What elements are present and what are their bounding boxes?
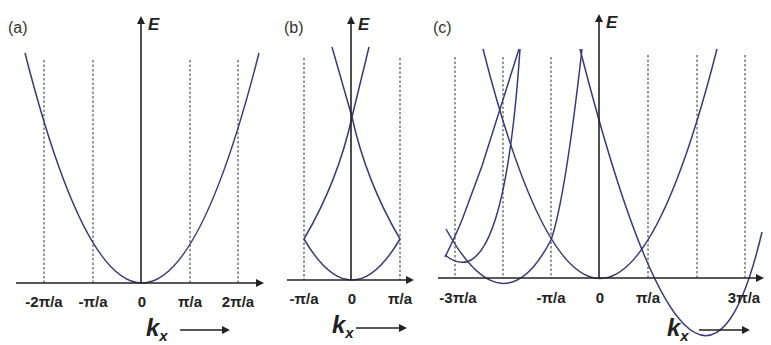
tick-label: -π/a — [79, 293, 109, 310]
tick-label: -2π/a — [25, 293, 63, 310]
tick-label: 0 — [596, 289, 604, 306]
panel-b-label: (b) — [284, 19, 304, 36]
tick-label: -3π/a — [439, 289, 477, 306]
tick-label: π/a — [388, 290, 413, 307]
dispersion-curve — [25, 53, 259, 283]
tick-label: -π/a — [537, 289, 567, 306]
panel-c: (c) E -3π/a -π/a 0 π/a 3π/a kx — [433, 13, 762, 344]
energy-axis-label: E — [148, 15, 160, 34]
kx-axis-label: kx — [667, 314, 689, 344]
tick-label: -π/a — [290, 290, 320, 307]
panel-a: (a) E -2π/a -π/a 0 π/a 2π/a kx — [8, 15, 262, 344]
tick-label: π/a — [636, 289, 661, 306]
panel-b: (b) E -π/a 0 π/a kx — [284, 15, 413, 341]
tick-label: 0 — [348, 290, 356, 307]
tick-label: 2π/a — [222, 293, 255, 310]
band-diagram-figure: (a) E -2π/a -π/a 0 π/a 2π/a kx (b) E — [0, 0, 771, 345]
tick-label: π/a — [178, 293, 203, 310]
periodic-band-left — [445, 49, 582, 283]
tick-label: 0 — [138, 293, 146, 310]
folded-band-right — [332, 47, 400, 239]
kx-axis-label: kx — [146, 314, 168, 344]
energy-axis-label: E — [358, 15, 370, 34]
panel-c-label: (c) — [433, 19, 452, 36]
first-band-curve — [304, 239, 400, 280]
energy-axis-label: E — [606, 13, 618, 32]
kx-axis-label: kx — [332, 311, 354, 341]
tick-label: 3π/a — [728, 289, 761, 306]
panel-a-label: (a) — [8, 19, 28, 36]
